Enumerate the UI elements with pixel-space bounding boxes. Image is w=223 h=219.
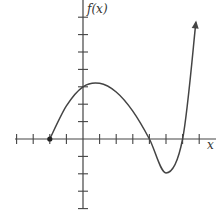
arrow-head-icon [192,20,199,28]
y-axis-label: f(x) [86,2,108,16]
x-axis-label: x [207,138,214,152]
function-graph: f(x) x [0,0,223,219]
function-curve [50,22,196,173]
start-point-dot [47,136,52,141]
